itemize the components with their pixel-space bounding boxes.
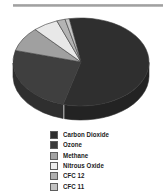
legend-item[interactable]: Nitrous Oxide: [50, 161, 163, 171]
legend-item-label: Methane: [63, 152, 88, 160]
legend-swatch-icon: [50, 131, 58, 139]
legend-item-label: CFC 12: [63, 172, 84, 180]
legend-item-label: Carbon Dioxide: [63, 131, 109, 139]
legend-item-label: Ozone: [63, 141, 82, 149]
legend-swatch-icon: [50, 141, 58, 149]
legend-item[interactable]: CFC 11: [50, 181, 163, 191]
chart-legend: Carbon DioxideOzoneMethaneNitrous OxideC…: [50, 130, 163, 192]
pie-chart-plot: [0, 14, 163, 126]
header-rule: [13, 4, 163, 7]
legend-item[interactable]: Carbon Dioxide: [50, 130, 163, 140]
pie-chart-svg: [0, 14, 163, 126]
legend-item[interactable]: CFC 12: [50, 171, 163, 181]
legend-item-label: CFC 11: [63, 183, 84, 191]
legend-swatch-icon: [50, 172, 58, 180]
legend-item[interactable]: Methane: [50, 151, 163, 161]
legend-swatch-icon: [50, 183, 58, 191]
legend-item[interactable]: Ozone: [50, 140, 163, 150]
legend-item-label: Nitrous Oxide: [63, 162, 104, 170]
pie-chart-figure: Carbon DioxideOzoneMethaneNitrous OxideC…: [0, 0, 163, 193]
legend-swatch-icon: [50, 152, 58, 160]
legend-swatch-icon: [50, 162, 58, 170]
pie-top-faces: [13, 18, 149, 106]
